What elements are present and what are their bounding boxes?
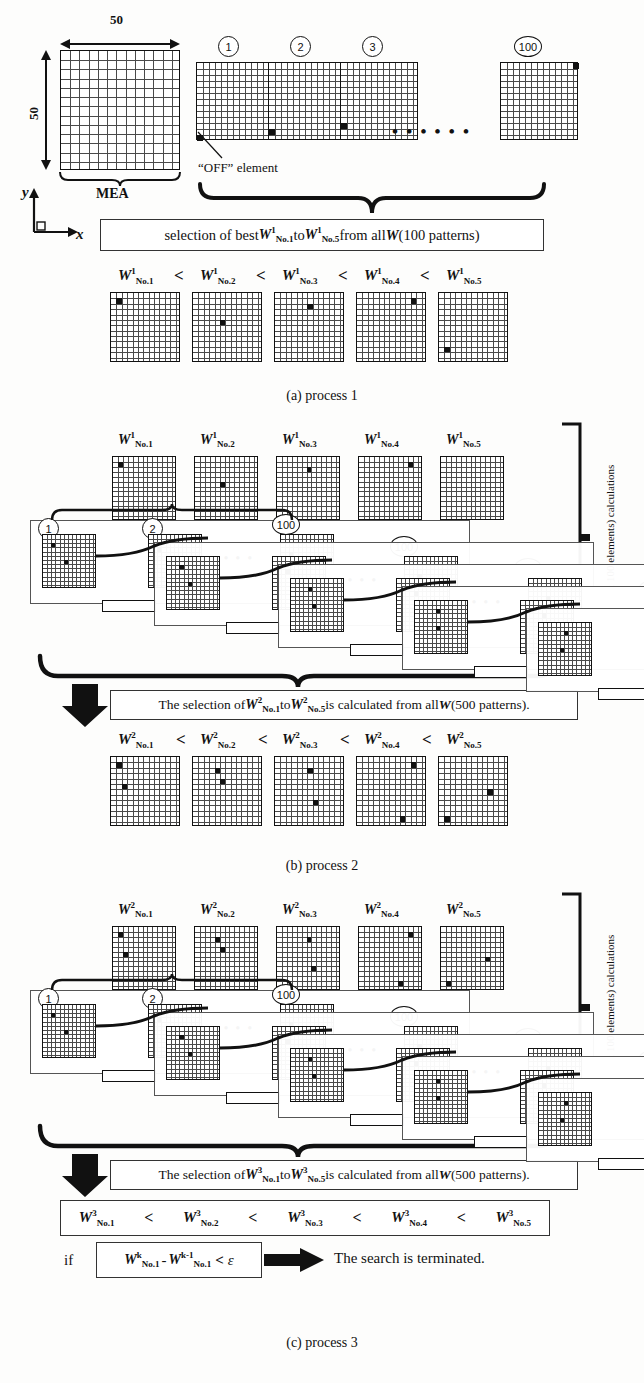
termination-row: if WkNo.1-Wk-1No.1<ε The search is termi… (60, 1242, 580, 1282)
circled-number-2: 2 (290, 36, 311, 57)
p2-res-wa: W2No.1 (245, 695, 280, 714)
w-label: W2No.2 (200, 900, 235, 919)
w-label: W3No.3 (287, 1208, 323, 1228)
grid-lines (501, 63, 577, 139)
less-than-icon: < (340, 730, 350, 750)
less-than-icon: < (420, 266, 430, 286)
sel-pre: selection of best (164, 227, 258, 244)
off-element (269, 129, 275, 135)
p3-res-wb: W3No.5 (291, 1165, 326, 1184)
termination-condition-box: WkNo.1-Wk-1No.1<ε (96, 1242, 262, 1278)
process3-down-arrow (60, 1154, 110, 1198)
candidate-patterns: 123100 (0, 0, 644, 200)
off-element (188, 1052, 192, 1056)
p3-res-pre: The selection of (158, 1167, 245, 1183)
cascade-grid-1-1 (42, 534, 96, 588)
p2-res-mid: to (280, 697, 291, 713)
top-grid-5 (440, 456, 504, 520)
w-label: W1No.5 (446, 430, 481, 449)
circled-number-100: 100 (514, 36, 542, 57)
sel-post: from all (339, 227, 385, 244)
off-element (220, 482, 225, 487)
grid-lines (193, 293, 261, 361)
off-element (118, 932, 123, 937)
sel-mid: to (293, 227, 304, 244)
off-element (312, 1074, 316, 1078)
off-element (436, 626, 440, 630)
cascade-thin-strip (102, 1070, 156, 1082)
off-element (64, 1030, 68, 1034)
process2-result-box: The selection of W2No.1 to W2No.5 is cal… (110, 690, 578, 720)
off-element (118, 462, 123, 467)
off-element (308, 587, 312, 591)
off-element (408, 932, 413, 937)
process2-down-arrow (60, 684, 110, 728)
off-element (436, 1096, 440, 1100)
cascade-hook (466, 1074, 586, 1098)
cascade-brace (50, 976, 300, 992)
cascade-thin-strip (226, 1092, 280, 1104)
p2-ranked-grid-4 (356, 756, 426, 826)
termination-result-text: The search is terminated. (334, 1250, 485, 1267)
off-element (408, 462, 413, 467)
grid-lines (291, 579, 343, 631)
off-element (220, 320, 225, 325)
cascade-hook (218, 560, 338, 584)
cascade-thin-strip (226, 622, 280, 634)
off-element (313, 800, 318, 805)
candidate-grid-2 (268, 62, 346, 140)
cascade-grid-3-1 (290, 1048, 344, 1102)
p2-res-post: is calculated from all (325, 697, 439, 713)
off-element (116, 298, 121, 303)
off-element (411, 298, 416, 303)
w-label: W2No.5 (446, 900, 481, 919)
off-element (446, 981, 451, 986)
process1-selection-box: selection of best W1No.1 to W1No.5 from … (100, 219, 544, 251)
cascade-thin-strip (474, 1136, 528, 1148)
axis-x-label: x (76, 226, 84, 243)
grid-lines (167, 1027, 219, 1079)
process3-result-box: The selection of W3No.1 to W3No.5 is cal… (110, 1160, 578, 1190)
cond-w1: WkNo.1 (124, 1250, 159, 1269)
circled-number-3: 3 (362, 36, 383, 57)
process3-caption: (c) process 3 (0, 1335, 644, 1351)
off-element (312, 604, 316, 608)
off-element (215, 768, 220, 773)
w-label: W1No.3 (282, 430, 317, 449)
w-label: W3No.2 (183, 1208, 219, 1228)
process-1-section: 50 50 MEA y x 123100 • • • • • • (0, 0, 644, 410)
grid-lines (415, 1071, 467, 1123)
cascade-grid-5-1 (538, 622, 592, 676)
cascade-hook (218, 1030, 338, 1054)
process-2-section: W1No.1W1No.2W1No.3W1No.4W1No.5 12100• • … (0, 420, 644, 870)
off-element (308, 1057, 312, 1061)
grid-lines (197, 63, 273, 139)
w-label: W1No.1 (118, 430, 153, 449)
off-element (123, 952, 128, 957)
cascade-thin-strip (598, 1158, 644, 1170)
p2-res-wall: W (439, 697, 451, 713)
cascade-grid-4-1 (414, 1070, 468, 1124)
less-than-icon: < (248, 1209, 257, 1227)
off-element (400, 816, 405, 821)
w-label: W2No.3 (282, 900, 317, 919)
off-element (560, 648, 564, 652)
cascade-thin-strip (474, 666, 528, 678)
less-than-icon: < (176, 730, 186, 750)
off-element (64, 560, 68, 564)
less-than-icon: < (258, 730, 268, 750)
p2-ranked-grid-2 (192, 756, 262, 826)
off-element (564, 1101, 568, 1105)
cascade-grid-5-1 (538, 1092, 592, 1146)
off-element (560, 1118, 564, 1122)
grid-lines (193, 757, 261, 825)
sel-w-a: W1No.1 (259, 225, 294, 244)
off-element (116, 762, 121, 767)
grid-lines (415, 601, 467, 653)
less-than-icon: < (174, 266, 184, 286)
process3-ranking-box: W3No.1<W3No.2<W3No.3<W3No.4<W3No.5 (60, 1200, 550, 1236)
off-element (220, 779, 225, 784)
off-element (444, 347, 449, 352)
termination-if-label: if (64, 1252, 73, 1269)
p2-res-wb: W2No.5 (291, 695, 326, 714)
